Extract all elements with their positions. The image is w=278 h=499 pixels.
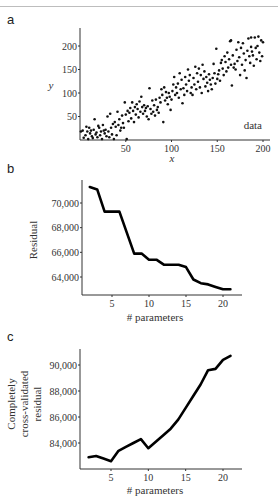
line-chart-c-cv-residual: 510152084,00086,00088,00090,000Completel… (0, 0, 278, 499)
y-axis-title-line: residual (31, 387, 43, 422)
cv-residual-line (89, 356, 231, 461)
y-tick-label: 88,000 (50, 386, 78, 397)
y-axis-title: Completelycross-validatedresidual (5, 370, 43, 437)
x-tick-label: 20 (218, 472, 228, 483)
x-tick-label: 10 (143, 472, 153, 483)
y-axis-title-line: Completely (5, 378, 17, 430)
x-tick-label: 5 (109, 472, 114, 483)
x-axis-title: # parameters (127, 484, 184, 496)
y-tick-label: 84,000 (50, 438, 78, 449)
y-tick-label: 86,000 (50, 412, 78, 423)
y-tick-label: 90,000 (50, 360, 78, 371)
x-tick-label: 15 (181, 472, 191, 483)
y-axis-title-line: cross-validated (18, 370, 30, 437)
